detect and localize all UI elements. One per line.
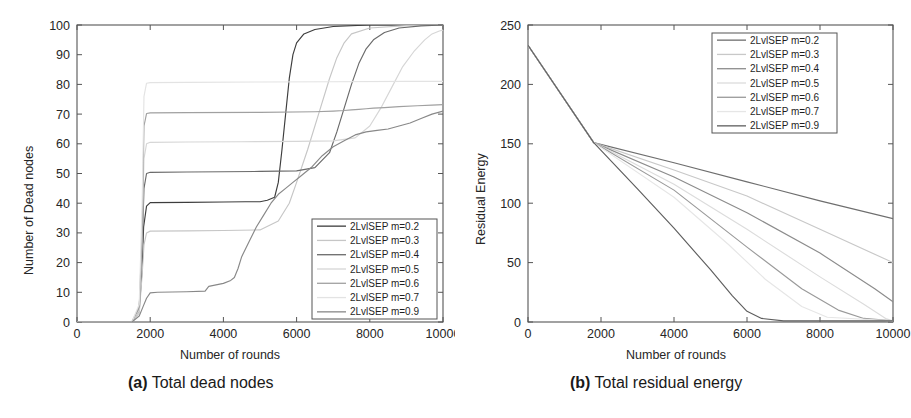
y-tick-label: 100 [500, 197, 521, 211]
legend-label: 2LvlSEP m=0.3 [350, 235, 419, 246]
y-tick-label: 250 [500, 19, 521, 33]
x-tick-label: 2000 [136, 327, 164, 340]
legend-label: 2LvlSEP m=0.6 [750, 92, 819, 103]
legend-label: 2LvlSEP m=0.9 [350, 306, 419, 317]
y-tick-label: 30 [56, 226, 70, 240]
y-tick-label: 20 [56, 256, 70, 270]
x-tick-label: 6000 [733, 327, 761, 340]
x-tick-label: 10000 [426, 327, 455, 340]
x-tick-label: 0 [74, 327, 81, 340]
chart-a-x-axis-title: Number of rounds [180, 348, 280, 362]
plot-frame [528, 25, 893, 322]
y-tick-label: 10 [56, 286, 70, 300]
legend-label: 2LvlSEP m=0.4 [350, 249, 419, 260]
y-tick-label: 0 [514, 316, 521, 330]
y-tick-label: 150 [500, 137, 521, 151]
legend-label: 2LvlSEP m=0.2 [350, 221, 419, 232]
legend-label: 2LvlSEP m=0.5 [750, 78, 819, 89]
chart-a-caption-tag: (a) [128, 374, 148, 391]
x-tick-label: 8000 [356, 327, 384, 340]
y-tick-label: 50 [507, 256, 521, 270]
chart-b-svg: 02000400060008000100000501001502002502Lv… [456, 0, 911, 340]
figure-container: 0200040006000800010000010203040506070809… [0, 0, 911, 418]
y-tick-label: 200 [500, 78, 521, 92]
chart-b-y-axis-title: Residual Energy [474, 153, 488, 245]
y-tick-label: 0 [63, 316, 70, 330]
x-tick-label: 8000 [806, 327, 834, 340]
y-tick-label: 70 [56, 108, 70, 122]
chart-b-x-axis-title: Number of rounds [626, 348, 726, 362]
x-tick-label: 10000 [876, 327, 911, 340]
y-tick-label: 80 [56, 78, 70, 92]
y-tick-label: 100 [49, 19, 70, 33]
legend-label: 2LvlSEP m=0.4 [750, 63, 819, 74]
chart-b-caption-text: Total residual energy [595, 374, 743, 391]
x-tick-label: 0 [525, 327, 532, 340]
legend-label: 2LvlSEP m=0.7 [350, 292, 419, 303]
series-line-2lvlsep-m-0-4 [528, 45, 893, 302]
legend: 2LvlSEP m=0.22LvlSEP m=0.32LvlSEP m=0.42… [712, 33, 837, 133]
chart-a-caption: (a) Total dead nodes [128, 374, 274, 392]
chart-a-caption-text: Total dead nodes [152, 374, 274, 391]
x-tick-label: 6000 [283, 327, 311, 340]
y-tick-label: 60 [56, 137, 70, 151]
chart-b-caption: (b) Total residual energy [570, 374, 742, 392]
y-tick-label: 50 [56, 167, 70, 181]
legend-label: 2LvlSEP m=0.9 [750, 120, 819, 131]
chart-a-y-axis-title: Number of Dead nodes [22, 146, 36, 275]
chart-a-svg: 0200040006000800010000010203040506070809… [0, 0, 455, 340]
legend-label: 2LvlSEP m=0.3 [750, 49, 819, 60]
legend-label: 2LvlSEP m=0.6 [350, 278, 419, 289]
legend-label: 2LvlSEP m=0.5 [350, 264, 419, 275]
x-tick-label: 2000 [587, 327, 615, 340]
series-line-2lvlsep-m-0-3 [528, 45, 893, 262]
series-group [528, 45, 893, 321]
y-tick-label: 40 [56, 197, 70, 211]
x-tick-label: 4000 [209, 327, 237, 340]
series-line-2lvlsep-m-0-2 [528, 45, 893, 218]
chart-panel-a: 0200040006000800010000010203040506070809… [0, 0, 455, 418]
chart-panel-b: 02000400060008000100000501001502002502Lv… [456, 0, 911, 418]
chart-b-caption-tag: (b) [570, 374, 590, 391]
y-tick-label: 90 [56, 48, 70, 62]
legend-label: 2LvlSEP m=0.2 [750, 35, 819, 46]
x-tick-label: 4000 [660, 327, 688, 340]
legend-label: 2LvlSEP m=0.7 [750, 106, 819, 117]
legend: 2LvlSEP m=0.22LvlSEP m=0.32LvlSEP m=0.42… [312, 219, 437, 319]
